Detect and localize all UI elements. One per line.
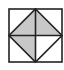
geometry-diagram [0, 0, 64, 70]
